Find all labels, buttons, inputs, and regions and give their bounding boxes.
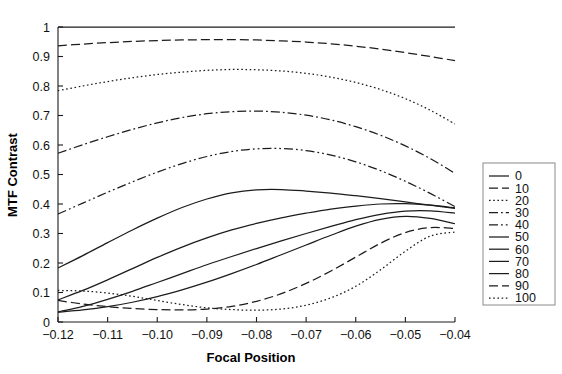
x-tick-label: −0.04 [439, 328, 471, 342]
x-tick-label: −0.10 [141, 328, 173, 342]
x-tick-label: −0.07 [290, 328, 322, 342]
y-tick-label: 0.8 [33, 80, 50, 94]
curve-series-80 [58, 216, 455, 312]
y-tick-label: 0.1 [33, 286, 50, 300]
y-tick-label: 0.4 [33, 198, 50, 212]
x-tick-label: −0.11 [92, 328, 123, 342]
curve-series-100 [58, 232, 455, 310]
x-axis-ticks: −0.12−0.11−0.10−0.09−0.08−0.07−0.06−0.05… [42, 317, 471, 342]
y-tick-label: 0.3 [33, 227, 50, 241]
x-tick-label: −0.06 [340, 328, 372, 342]
y-tick-label: 0.2 [33, 257, 50, 271]
x-tick-label: −0.08 [241, 328, 273, 342]
chart-canvas: −0.12−0.11−0.10−0.09−0.08−0.07−0.06−0.05… [0, 0, 562, 374]
y-tick-label: 0 [43, 316, 50, 330]
axes-group [58, 27, 455, 322]
curve-series-20 [58, 69, 455, 124]
curve-series-30 [58, 111, 455, 173]
legend-label-100: 100 [515, 291, 536, 305]
y-tick-label: 0.5 [33, 168, 50, 182]
curve-series-10 [58, 40, 455, 61]
mtf-contrast-chart: −0.12−0.11−0.10−0.09−0.08−0.07−0.06−0.05… [0, 0, 562, 374]
y-tick-label: 0.9 [33, 50, 50, 64]
x-axis-title: Focal Position [207, 350, 296, 365]
plot-curves-group [58, 27, 455, 312]
curve-series-60 [58, 204, 455, 300]
x-tick-label: −0.12 [42, 328, 74, 342]
y-tick-label: 1 [43, 21, 50, 35]
y-tick-label: 0.7 [33, 109, 50, 123]
y-tick-label: 0.6 [33, 139, 50, 153]
curve-series-50 [58, 189, 455, 268]
curve-series-90 [58, 227, 455, 310]
legend: 0102030405060708090100 [483, 163, 555, 305]
y-axis-title: MTF Contrast [5, 132, 20, 216]
curve-series-70 [58, 211, 455, 312]
x-tick-label: −0.09 [191, 328, 223, 342]
x-tick-label: −0.05 [390, 328, 422, 342]
